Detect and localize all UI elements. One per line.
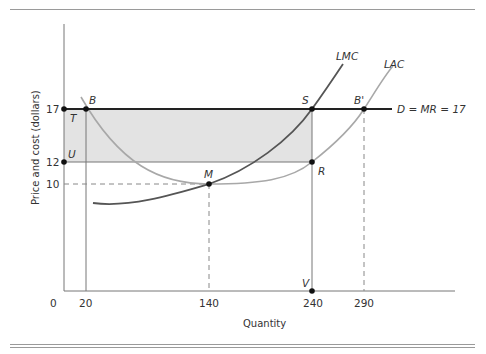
label-V: V	[302, 277, 310, 289]
point-B	[83, 106, 89, 112]
point-T	[61, 106, 67, 112]
y-tick-10: 10	[46, 178, 59, 190]
chart: B T S B' U R M V LMC LAC D = MR = 17 17 …	[0, 0, 486, 354]
point-R	[309, 159, 315, 165]
point-U	[61, 159, 67, 165]
point-M	[206, 181, 212, 187]
label-M: M	[204, 168, 213, 180]
label-B: B	[89, 94, 96, 106]
label-demand: D = MR = 17	[397, 103, 466, 115]
label-S: S	[302, 94, 309, 106]
x-tick-20: 20	[79, 297, 92, 309]
y-axis-title: Price and cost (dollars)	[30, 90, 41, 205]
x-axis-title: Quantity	[243, 318, 286, 329]
profit-region	[64, 109, 312, 162]
x-tick-140: 140	[199, 297, 219, 309]
label-R: R	[318, 165, 325, 177]
x-tick-290: 290	[354, 297, 374, 309]
x-tick-0: 0	[50, 297, 57, 309]
point-S	[309, 106, 315, 112]
y-tick-17: 17	[46, 103, 59, 115]
label-lmc: LMC	[336, 50, 359, 62]
label-lac: LAC	[384, 58, 405, 70]
x-tick-240: 240	[303, 297, 323, 309]
label-U: U	[68, 148, 76, 160]
point-V	[309, 288, 315, 294]
label-B-prime: B'	[354, 94, 364, 106]
y-tick-12: 12	[46, 156, 59, 168]
point-B-prime	[361, 106, 367, 112]
